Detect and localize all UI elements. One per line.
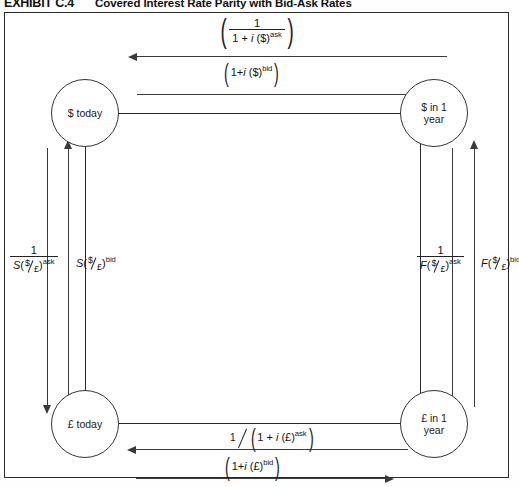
fraction-numerator: 1: [229, 17, 284, 30]
fraction-denominator: F($£)ask: [417, 257, 464, 273]
inner-square: [85, 113, 421, 424]
superscript: bid: [262, 64, 272, 73]
exhibit-title-bar: EXHIBIT C.4 Covered Interest Rate Parity…: [0, 0, 519, 11]
formula-pound-bid-compound: (1+i (£)bid): [223, 457, 282, 477]
arrow-line-left-inner: [68, 148, 69, 407]
currency: (£): [247, 460, 264, 472]
node-pound-in-1-year: £ in 1 year: [400, 390, 468, 458]
node-pound-in-1-year-label: £ in 1 year: [421, 412, 447, 436]
arrowhead-bottom-outer-right: [385, 475, 394, 483]
formula-forward-ask-inverse: 1F($£)ask: [417, 244, 464, 274]
formula-spot-ask-inverse: 1S($£)ask: [10, 244, 58, 274]
paren-open: (: [224, 63, 229, 83]
node-dollar-today-label: $ today: [68, 107, 102, 119]
den-prefix: 1 +: [257, 431, 276, 443]
formula-pound-ask-discount: 1(1 + i (£)ask): [230, 428, 315, 448]
pair-denominator: £: [501, 262, 506, 272]
superscript: bid: [510, 255, 519, 264]
den-superscript: ask: [43, 257, 55, 266]
exhibit-page: EXHIBIT C.4 Covered Interest Rate Parity…: [0, 0, 519, 487]
exhibit-title: Covered Interest Rate Parity with Bid-As…: [95, 0, 352, 9]
arrowhead-right-outer-up: [470, 140, 478, 149]
arrowhead-bottom-inner-left: [127, 446, 136, 454]
paren-open: (: [225, 457, 230, 477]
den-superscript: ask: [295, 429, 307, 438]
fraction-numerator: 1: [10, 244, 58, 257]
spot-symbol: S: [13, 259, 20, 271]
currency-pair-fraction: $£: [24, 259, 39, 274]
arrow-line-bottom-outer: [136, 478, 386, 479]
paren-open: (: [251, 428, 256, 448]
prefix: 1+: [231, 66, 244, 78]
currency: ($): [246, 66, 263, 78]
arrow-line-right-inner: [452, 148, 453, 407]
den-superscript: ask: [449, 257, 461, 266]
fraction: 1F($£)ask: [417, 244, 464, 274]
exhibit-label: EXHIBIT C.4: [4, 0, 74, 10]
den-currency: ($): [253, 32, 270, 44]
fraction: 11 + i ($)ask: [229, 17, 284, 44]
paren-close: ): [275, 457, 280, 477]
pair-denominator: £: [97, 262, 102, 272]
node-dollar-in-1-year: $ in 1 year: [400, 79, 468, 147]
paren-close: ): [287, 18, 293, 42]
pair-denominator: £: [34, 264, 39, 274]
node-dollar-future-line1: $ in 1: [421, 101, 447, 113]
prefix: 1+: [232, 460, 245, 472]
fraction-denominator: 1 + i ($)ask: [229, 30, 284, 44]
arrow-line-bottom-inner: [136, 449, 408, 450]
superscript: bid: [106, 255, 116, 264]
forward-symbol: F: [481, 257, 488, 269]
fraction-denominator: S($£)ask: [10, 257, 58, 273]
currency-pair-fraction: $£: [430, 259, 445, 274]
arrow-line-top-outer: [137, 56, 447, 57]
arrow-line-left-outer: [47, 148, 48, 407]
fraction: 1S($£)ask: [10, 244, 58, 274]
paren-open: (: [221, 18, 227, 42]
fraction-numerator: 1: [417, 244, 464, 257]
formula-forward-bid: F($£)bid: [481, 255, 519, 271]
formula-spot-bid: S($£)bid: [76, 255, 116, 271]
node-pound-today-label: £ today: [68, 418, 102, 430]
node-dollar-today: $ today: [51, 79, 119, 147]
node-dollar-in-1-year-label: $ in 1 year: [421, 101, 447, 125]
arrow-line-top-inner: [137, 94, 445, 95]
arrowhead-top-outer-left: [128, 53, 137, 61]
superscript: bid: [263, 458, 273, 467]
paren-close: ): [309, 428, 314, 448]
node-pound-future-line2: year: [424, 424, 444, 436]
den-prefix: 1 +: [232, 32, 251, 44]
den-superscript: ask: [270, 30, 282, 39]
arrowhead-left-outer-down: [43, 405, 51, 414]
arrow-line-right-outer: [474, 148, 475, 407]
formula-dollar-bid-compound: (1+i ($)bid): [222, 63, 281, 83]
formula-dollar-ask-discount: (11 + i ($)ask): [218, 17, 296, 44]
currency-pair-fraction: $£: [87, 256, 102, 271]
node-pound-future-line1: £ in 1: [421, 412, 447, 424]
node-dollar-future-line2: year: [424, 113, 444, 125]
currency-pair-fraction: $£: [491, 256, 506, 271]
inline-slash: [236, 428, 249, 448]
spot-symbol: S: [76, 257, 83, 269]
forward-symbol: F: [420, 259, 427, 271]
pair-denominator: £: [440, 264, 445, 274]
paren-close: ): [274, 63, 279, 83]
node-pound-today: £ today: [51, 390, 119, 458]
den-currency: (£): [278, 431, 295, 443]
